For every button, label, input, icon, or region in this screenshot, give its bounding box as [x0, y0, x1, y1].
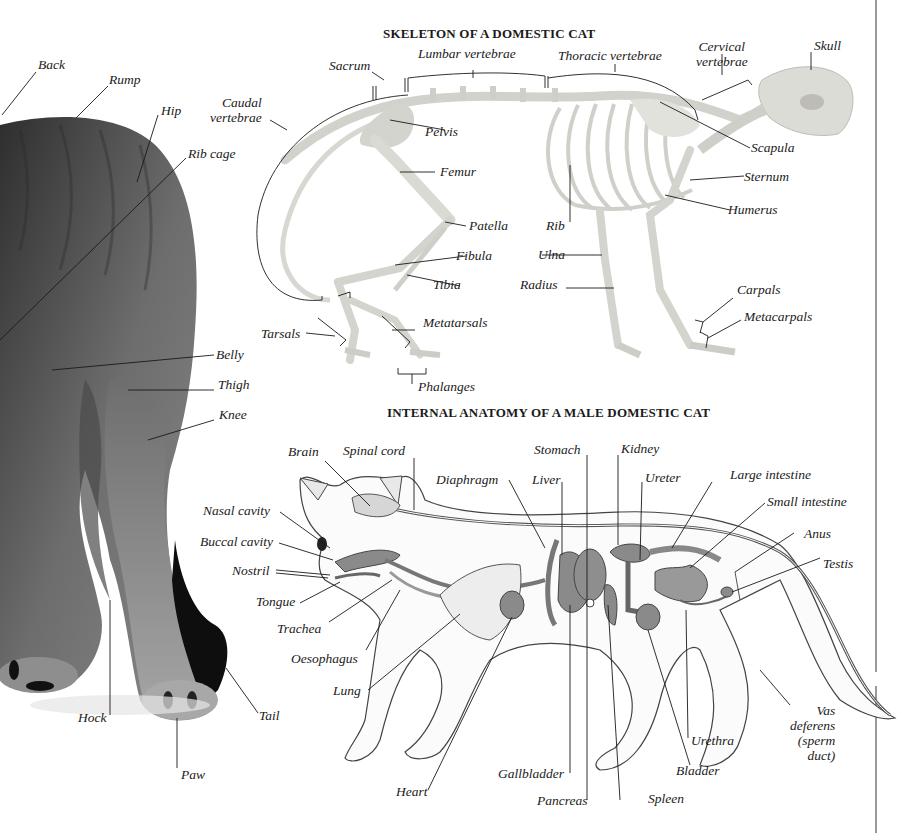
label-tail: Tail: [259, 708, 280, 723]
cat-photo-rear: [0, 117, 227, 720]
label-sternum: Sternum: [744, 169, 789, 184]
label-hock: Hock: [78, 710, 106, 725]
label-diaphragm: Diaphragm: [436, 472, 498, 487]
label-trachea: Trachea: [277, 621, 321, 636]
label-radius: Radius: [520, 277, 558, 292]
label-rib: Rib: [546, 218, 565, 233]
label-tarsals: Tarsals: [261, 326, 300, 341]
label-heart: Heart: [396, 784, 428, 799]
label-pancreas: Pancreas: [537, 793, 588, 808]
label-lung: Lung: [333, 683, 361, 698]
skeleton-leader-lines: [257, 52, 811, 384]
label-belly: Belly: [216, 347, 244, 362]
label-brain: Brain: [288, 444, 319, 459]
label-tibia: Tibia: [433, 277, 461, 292]
label-large-intestine: Large intestine: [730, 467, 811, 482]
label-rib-cage: Rib cage: [188, 146, 236, 161]
label-urethra: Urethra: [691, 733, 734, 748]
label-pelvis: Pelvis: [425, 124, 458, 139]
label-paw: Paw: [181, 767, 205, 782]
label-caudal-vertebrae: Caudal vertebrae: [210, 95, 262, 125]
label-liver: Liver: [532, 472, 561, 487]
label-humerus: Humerus: [728, 202, 778, 217]
label-vas-deferens: Vas deferens (sperm duct): [790, 703, 835, 763]
label-knee: Knee: [219, 407, 247, 422]
label-ureter: Ureter: [645, 470, 681, 485]
label-cervical-vertebrae: Cervical vertebrae: [696, 39, 748, 69]
label-bladder: Bladder: [676, 763, 720, 778]
label-nostril: Nostril: [232, 563, 270, 578]
label-skull: Skull: [814, 38, 841, 53]
label-small-intestine: Small intestine: [767, 494, 847, 509]
label-testis: Testis: [823, 556, 853, 571]
label-tongue: Tongue: [256, 594, 295, 609]
label-carpals: Carpals: [737, 282, 781, 297]
label-thoracic-vertebrae: Thoracic vertebrae: [558, 48, 662, 63]
label-metacarpals: Metacarpals: [744, 309, 812, 324]
internal-anatomy-title: INTERNAL ANATOMY OF A MALE DOMESTIC CAT: [387, 405, 710, 421]
label-buccal-cavity: Buccal cavity: [200, 534, 273, 549]
label-stomach: Stomach: [534, 442, 581, 457]
label-back: Back: [38, 57, 65, 72]
label-ulna: Ulna: [538, 247, 565, 262]
label-nasal-cavity: Nasal cavity: [203, 503, 270, 518]
label-oesophagus: Oesophagus: [291, 651, 358, 666]
label-sacrum: Sacrum: [329, 58, 370, 73]
label-metatarsals: Metatarsals: [423, 315, 488, 330]
label-thigh: Thigh: [218, 377, 250, 392]
label-lumbar-vertebrae: Lumbar vertebrae: [418, 46, 516, 61]
skeleton-title: SKELETON OF A DOMESTIC CAT: [383, 26, 595, 42]
label-hip: Hip: [161, 103, 181, 118]
label-femur: Femur: [440, 164, 476, 179]
label-spinal-cord: Spinal cord: [343, 443, 405, 458]
label-scapula: Scapula: [751, 140, 795, 155]
label-fibula: Fibula: [456, 248, 492, 263]
label-spleen: Spleen: [648, 791, 684, 806]
label-anus: Anus: [804, 526, 831, 541]
label-phalanges: Phalanges: [418, 379, 475, 394]
label-gallbladder: Gallbladder: [498, 766, 564, 781]
label-patella: Patella: [469, 218, 508, 233]
label-kidney: Kidney: [621, 441, 659, 456]
label-rump: Rump: [109, 72, 141, 87]
